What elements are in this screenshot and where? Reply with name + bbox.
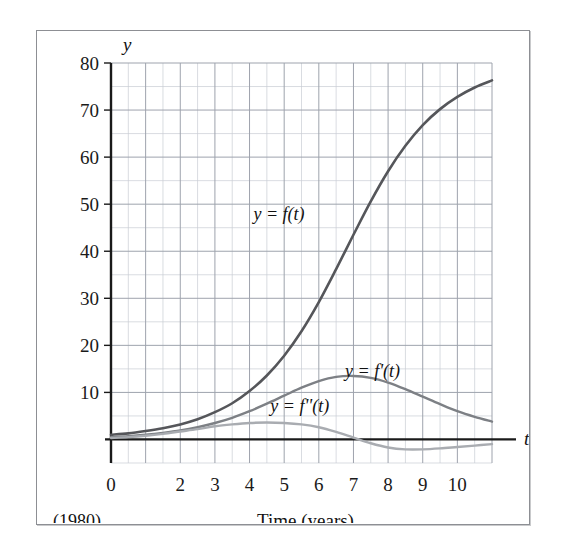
x-tick-label: 10	[448, 474, 467, 495]
x-tick-label: 9	[418, 474, 428, 495]
chart-plot: 102030405060708002345678910y = f(t)y = f…	[37, 31, 529, 523]
series-labels: y = f(t)y = f'(t)y = f''(t)	[251, 204, 400, 417]
series-label: y = f''(t)	[268, 396, 329, 417]
y-tick-label: 70	[80, 100, 99, 121]
x-axis-title: Time (years)	[257, 510, 354, 523]
x-tick-label: 4	[245, 474, 255, 495]
t-axis-name: t	[524, 428, 529, 449]
y-axis-name: y	[121, 34, 132, 55]
x-tick-label: 2	[176, 474, 186, 495]
y-tick-label: 60	[80, 147, 99, 168]
x-tick-label: 7	[349, 474, 359, 495]
x-tick-label: 0	[106, 474, 116, 495]
y-axis-ticks: 1020304050607080	[80, 53, 111, 403]
origin-year-note: (1980)	[53, 511, 101, 523]
y-tick-label: 30	[80, 288, 99, 309]
x-tick-label: 3	[210, 474, 220, 495]
y-tick-label: 80	[80, 53, 99, 74]
y-tick-label: 10	[80, 382, 99, 403]
x-tick-label: 8	[383, 474, 393, 495]
x-axis-ticks: 02345678910	[106, 474, 467, 495]
y-tick-label: 40	[80, 241, 99, 262]
x-tick-label: 5	[279, 474, 289, 495]
figure-frame: 102030405060708002345678910y = f(t)y = f…	[36, 30, 530, 525]
x-tick-label: 6	[314, 474, 324, 495]
y-tick-label: 20	[80, 335, 99, 356]
series-label: y = f(t)	[251, 204, 304, 225]
y-tick-label: 50	[80, 194, 99, 215]
series-label: y = f'(t)	[343, 361, 400, 382]
